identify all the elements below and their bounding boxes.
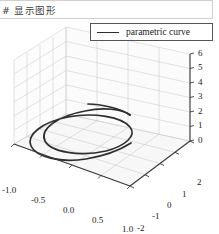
code-cell-text: # 显示图形	[2, 3, 57, 17]
ztick-label-0: 0	[198, 135, 203, 145]
legend-label: parametric curve	[126, 27, 190, 37]
xtick-label-4: 1.0	[122, 224, 133, 234]
ytick-label-4: 2	[197, 177, 202, 187]
figure-output: parametric curve -1.0 -0.5 0.0 0.5 1.0 -…	[0, 19, 219, 234]
xtick-label-1: -0.5	[31, 195, 45, 205]
xtick-label-0: -1.0	[2, 185, 16, 195]
ztick-label-2: 2	[198, 106, 203, 116]
tickmarks-z	[190, 53, 194, 141]
ytick-label-0: -2	[137, 223, 145, 233]
ztick-label-6: 6	[198, 48, 203, 58]
ytick-label-2: 0	[167, 200, 172, 210]
ztick-label-5: 5	[198, 62, 203, 72]
ztick-label-1: 1	[198, 120, 203, 130]
ztick-label-3: 3	[198, 91, 203, 101]
ztick-label-4: 4	[198, 77, 203, 87]
ytick-label-3: 1	[182, 189, 187, 199]
legend: parametric curve	[90, 23, 213, 41]
legend-line-sample	[97, 32, 119, 33]
code-cell[interactable]: # 显示图形	[0, 0, 213, 19]
xtick-label-2: 0.0	[63, 205, 74, 215]
ytick-label-1: -1	[152, 211, 160, 221]
xtick-label-3: 0.5	[92, 215, 103, 225]
